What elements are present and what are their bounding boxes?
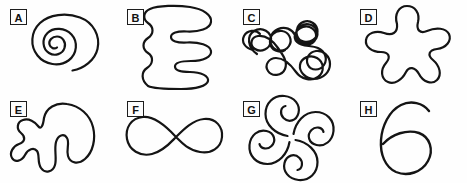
shape-spiral — [0, 0, 117, 91]
panel-a: A — [0, 0, 117, 91]
six-loop-path — [381, 103, 431, 174]
shape-figure: A B C D E F — [0, 0, 467, 183]
panel-b: B — [117, 0, 234, 91]
panel-c: C — [233, 0, 350, 91]
amoeba-path — [366, 6, 450, 83]
shape-six-loop — [350, 92, 467, 183]
panel-f: F — [117, 92, 234, 183]
meander-path — [143, 6, 211, 89]
spiral-path — [32, 15, 98, 71]
panel-h: H — [350, 92, 467, 183]
shape-scribble — [233, 0, 350, 91]
shape-amoeba — [350, 0, 467, 91]
shape-pinwheel — [233, 92, 350, 183]
pinwheel-lobe-group — [249, 96, 333, 180]
shape-figure-eight — [117, 92, 234, 183]
panel-g: G — [233, 92, 350, 183]
panel-d: D — [350, 0, 467, 91]
figure-eight-path — [127, 117, 222, 155]
shape-meander — [117, 0, 234, 91]
panel-e: E — [0, 92, 117, 183]
irregular-blob-path — [11, 104, 94, 172]
scribble-path — [249, 21, 330, 79]
shape-irregular-blob — [0, 92, 117, 183]
